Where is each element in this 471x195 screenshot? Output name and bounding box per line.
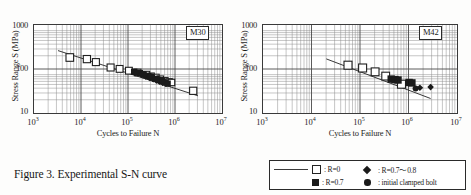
legend-entry-diamond-label: : R=0.7～0.8 — [378, 163, 466, 176]
figure-page: Stress Range S (MPa) 1000 100 10 — [0, 0, 471, 195]
legend-entry-filled-square: : R=0.7 — [312, 176, 364, 189]
legend-spacer — [274, 176, 312, 189]
circle-icon — [364, 179, 371, 186]
legend-entry-line — [274, 163, 312, 176]
filled-square-icon — [312, 179, 319, 186]
x-tick-1e4-m42: 104 — [298, 116, 322, 127]
legend-entry-diamond-symbol — [364, 163, 378, 176]
x-tick-1e3-m42: 103 — [250, 116, 274, 127]
x-tick-1e3-m30: 103 — [21, 116, 45, 127]
legend-label-r07: : R=0.7 — [322, 178, 343, 187]
diamond-icon — [363, 165, 371, 173]
x-tick-1e6-m30: 106 — [162, 116, 186, 127]
chart-m42: Stress Range S (MPa) 1000 100 10 — [231, 8, 471, 126]
y-tick-10-m30: 10 — [2, 106, 28, 116]
legend-box: : R=0 : R=0.7～0.8 : R=0.7 : initial clam… — [269, 160, 466, 190]
x-tick-1e6-m42: 106 — [395, 116, 419, 127]
legend-entry-circle-symbol — [364, 176, 378, 189]
y-tick-100-m30: 100 — [2, 63, 28, 73]
legend-entry-circle-label: : initial clamped bolt — [378, 176, 466, 189]
x-axis-label-m42: Cycles to Failure N — [280, 128, 440, 138]
x-tick-1e5-m30: 105 — [115, 116, 139, 127]
y-tick-1000-m30: 1000 — [2, 20, 28, 30]
open-square-icon — [312, 165, 321, 174]
chart-tag-m42: M42 — [419, 26, 442, 40]
x-tick-1e5-m42: 105 — [347, 116, 371, 127]
x-axis-label-m30: Cycles to Failure N — [48, 128, 208, 138]
legend-entry-open-square: : R=0 — [312, 163, 364, 176]
y-tick-10-m42: 10 — [231, 106, 257, 116]
legend-label-initial-clamped-bolt: : initial clamped bolt — [378, 178, 437, 187]
x-tick-1e4-m30: 104 — [68, 116, 92, 127]
legend-label-r07-08: : R=0.7～0.8 — [378, 164, 416, 175]
legend-label-r0: : R=0 — [324, 165, 340, 174]
line-icon — [274, 169, 308, 170]
x-tick-1e7-m30: 107 — [209, 116, 233, 127]
y-tick-100-m42: 100 — [231, 63, 257, 73]
chart-m30: Stress Range S (MPa) 1000 100 10 — [0, 8, 232, 126]
legend-grid: : R=0 : R=0.7～0.8 : R=0.7 : initial clam… — [274, 163, 466, 189]
y-tick-1000-m42: 1000 — [231, 20, 257, 30]
chart-tag-m30: M30 — [186, 26, 209, 40]
x-tick-1e7-m42: 107 — [444, 116, 468, 127]
figure-caption: Figure 3. Experimental S-N curve — [14, 168, 167, 180]
